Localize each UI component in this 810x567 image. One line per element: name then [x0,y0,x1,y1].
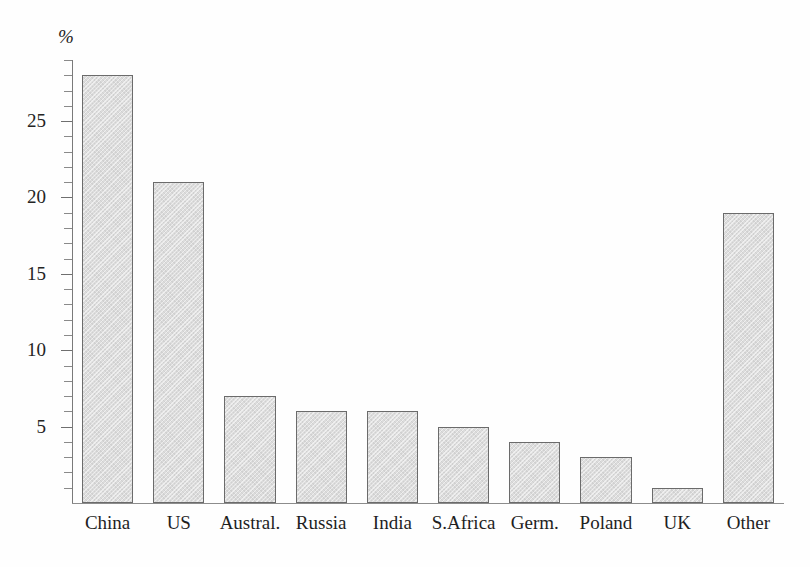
y-axis-minor-tick [64,259,72,260]
y-axis-tick-label: 5 [37,415,47,437]
y-axis-minor-tick [64,243,72,244]
category-label-china: China [72,512,143,534]
y-axis-unit-label: % [58,26,74,48]
y-axis-minor-tick [64,152,72,153]
category-label-austral: Austral. [214,512,285,534]
y-axis-minor-tick [64,213,72,214]
y-axis-minor-tick [64,91,72,92]
bar-russia [296,411,347,503]
y-axis-tick-label: 15 [27,262,46,284]
y-axis-minor-tick [64,366,72,367]
y-axis-minor-tick [64,442,72,443]
y-axis-minor-tick [64,335,72,336]
category-label-poland: Poland [570,512,641,534]
y-axis-tick-label: 10 [27,339,46,361]
y-axis-major-tick: 20 [61,197,72,198]
y-axis-minor-tick [64,167,72,168]
y-axis-minor-tick [64,396,72,397]
y-axis-major-tick: 5 [61,427,72,428]
y-axis-minor-tick [64,320,72,321]
y-axis-minor-tick [64,488,72,489]
bar-india [367,411,418,503]
x-axis-line [72,503,784,504]
category-label-other: Other [713,512,784,534]
bar-austral [224,396,275,503]
y-axis-minor-tick [64,60,72,61]
category-label-germ: Germ. [499,512,570,534]
y-axis-major-tick: 15 [61,274,72,275]
category-label-uk: UK [642,512,713,534]
y-axis-minor-tick [64,182,72,183]
y-axis-minor-tick [64,381,72,382]
bar-germ [509,442,560,503]
bar-china [82,75,133,503]
bar-series [72,60,784,503]
y-axis-minor-tick [64,472,72,473]
y-axis-minor-tick [64,304,72,305]
category-label-russia: Russia [286,512,357,534]
y-axis-tick-label: 20 [27,186,46,208]
bar-s-africa [438,427,489,503]
y-axis-minor-tick [64,228,72,229]
y-axis-minor-tick [64,289,72,290]
bar-uk [652,488,703,503]
y-axis-minor-tick [64,411,72,412]
y-axis-minor-tick [64,136,72,137]
y-axis-minor-tick [64,106,72,107]
bar-chart: % 510152025 ChinaUSAustral.RussiaIndiaS.… [0,0,810,567]
bar-other [723,213,774,503]
y-axis-minor-tick [64,457,72,458]
y-axis-tick-label: 25 [27,110,46,132]
y-axis-major-tick: 25 [61,121,72,122]
bar-poland [580,457,631,503]
category-label-us: US [143,512,214,534]
bar-us [153,182,204,503]
y-axis-minor-tick [64,75,72,76]
category-label-s-africa: S.Africa [428,512,499,534]
y-axis-major-tick: 10 [61,350,72,351]
plot-area: 510152025 ChinaUSAustral.RussiaIndiaS.Af… [72,60,784,503]
category-label-india: India [357,512,428,534]
